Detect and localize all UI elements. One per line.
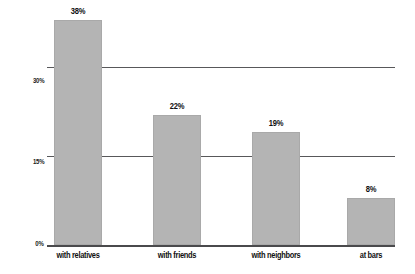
bar-with-neighbors	[252, 132, 300, 245]
plot-area	[54, 14, 395, 245]
y-tick-label-0: 0%	[36, 240, 44, 247]
gridline-30	[54, 67, 395, 68]
y-tick-label-30: 30%	[32, 77, 44, 84]
x-axis-line	[54, 245, 395, 247]
x-label-at-bars: at bars	[336, 250, 406, 260]
bar-chart: 30% 15% 0% 38% 22% 19% 8% with relatives…	[0, 0, 415, 274]
bar-with-friends	[153, 115, 201, 245]
y-tick-30: 30%	[0, 77, 44, 87]
bar-with-relatives	[54, 20, 102, 245]
bar-value-with-relatives: 38%	[58, 6, 98, 16]
y-tick-15: 15%	[0, 158, 44, 168]
x-label-with-friends: with friends	[142, 250, 212, 260]
gridline-15	[54, 156, 395, 157]
x-label-with-relatives: with relatives	[43, 250, 113, 260]
y-tick-label-15: 15%	[32, 158, 44, 165]
bar-value-with-friends: 22%	[157, 101, 197, 111]
x-label-with-neighbors: with neighbors	[241, 250, 311, 260]
bar-value-at-bars: 8%	[351, 184, 391, 194]
bar-value-with-neighbors: 19%	[256, 118, 296, 128]
bar-at-bars	[347, 198, 395, 245]
y-tick-0: 0%	[0, 240, 44, 250]
